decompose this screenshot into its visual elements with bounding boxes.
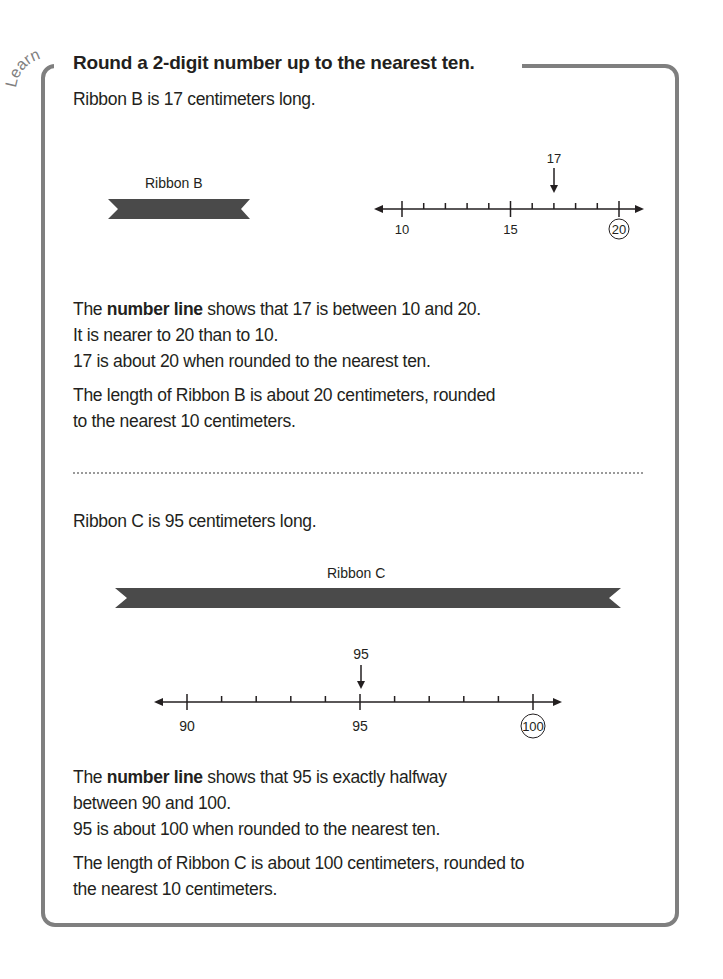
ribbon-b-conclusion-1: The length of Ribbon B is about 20 centi…: [73, 382, 495, 408]
ribbon-b-explanation-2: It is nearer to 20 than to 10.: [73, 322, 278, 348]
learn-tag-text: Learn: [4, 45, 42, 88]
right-arrow-icon: [635, 205, 644, 213]
number-line-c: 95 90 95 100: [150, 638, 570, 748]
number-line-c-label-95: 95: [352, 718, 368, 734]
number-line-c-marker-label: 95: [353, 646, 369, 662]
number-line-b-label-15: 15: [503, 222, 517, 237]
number-line-b-label-20: 20: [612, 222, 626, 237]
svg-text:Learn: Learn: [4, 45, 42, 88]
ribbon-c-conclusion-2: the nearest 10 centimeters.: [73, 876, 277, 902]
ribbon-c-conclusion-1: The length of Ribbon C is about 100 cent…: [73, 850, 524, 876]
ribbon-b-explanation-1: The number line shows that 17 is between…: [73, 296, 481, 322]
down-arrow-icon: [550, 185, 558, 193]
text-span: The: [73, 299, 107, 319]
lesson-title: Round a 2-digit number up to the nearest…: [73, 52, 475, 74]
ribbon-c-intro: Ribbon C is 95 centimeters long.: [73, 508, 316, 534]
left-arrow-icon: [154, 698, 163, 706]
ribbon-b-conclusion-2: to the nearest 10 centimeters.: [73, 408, 296, 434]
ribbon-c-explanation-3: 95 is about 100 when rounded to the near…: [73, 816, 440, 842]
ribbon-c-explanation-2: between 90 and 100.: [73, 790, 231, 816]
number-line-c-label-100: 100: [522, 719, 544, 734]
ribbon-c-shape: [115, 588, 621, 608]
number-line-b-label-10: 10: [395, 222, 409, 237]
ribbon-b-explanation-3: 17 is about 20 when rounded to the neare…: [73, 348, 431, 374]
ribbon-b-intro: Ribbon B is 17 centimeters long.: [73, 86, 315, 112]
key-term: number line: [107, 767, 203, 787]
ribbon-b-shape: [108, 199, 250, 219]
number-line-b-marker-label: 17: [547, 151, 561, 166]
right-arrow-icon: [553, 698, 562, 706]
text-span: The: [73, 767, 107, 787]
text-span: shows that 17 is between 10 and 20.: [203, 299, 481, 319]
section-divider: [73, 472, 643, 474]
ribbon-b-label: Ribbon B: [145, 175, 203, 191]
down-arrow-icon: [357, 681, 365, 689]
left-arrow-icon: [374, 205, 383, 213]
number-line-b: 17 10 15 20: [370, 145, 660, 245]
number-line-c-label-90: 90: [179, 718, 195, 734]
ribbon-c-explanation-1: The number line shows that 95 is exactly…: [73, 764, 447, 790]
key-term: number line: [107, 299, 203, 319]
ribbon-c-label: Ribbon C: [327, 565, 385, 581]
text-span: shows that 95 is exactly halfway: [203, 767, 447, 787]
